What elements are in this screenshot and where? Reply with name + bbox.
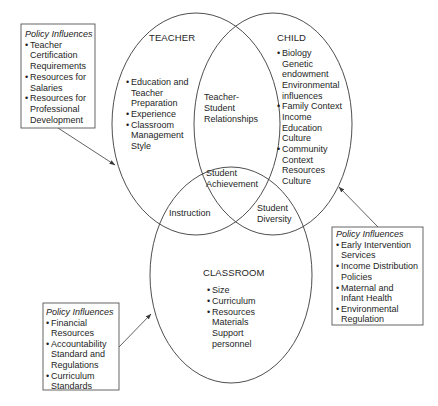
bullet: • bbox=[25, 72, 28, 82]
classroom-item-line: Resources bbox=[212, 307, 256, 317]
child-section: CHILD • Biology Genetic endowment Enviro… bbox=[277, 32, 343, 186]
classroom-title: CLASSROOM bbox=[203, 267, 265, 278]
policy-line: Teacher bbox=[30, 40, 62, 50]
child-item-line: Family Context bbox=[282, 101, 343, 111]
classroom-item-line: Curriculum bbox=[212, 296, 256, 306]
policy-line: Development bbox=[30, 115, 84, 125]
overlap-line: Teacher- bbox=[204, 92, 239, 102]
teacher-item-line: Teacher bbox=[131, 88, 163, 98]
policy-line: Curriculum bbox=[51, 371, 95, 381]
child-item-line: Environmental bbox=[282, 80, 340, 90]
child-policy-arrow bbox=[339, 187, 378, 227]
teacher-item-line: Style bbox=[131, 141, 151, 151]
child-item-line: Culture bbox=[282, 133, 311, 143]
bullet: • bbox=[277, 101, 280, 111]
child-title: CHILD bbox=[277, 32, 306, 43]
policy-line: Regulations bbox=[51, 360, 99, 370]
bullet: • bbox=[336, 261, 339, 271]
bullet: • bbox=[207, 307, 210, 317]
teacher-section: TEACHER • Education and Teacher Preparat… bbox=[126, 32, 195, 151]
bullet: • bbox=[46, 339, 49, 349]
venn-diagram: TEACHER • Education and Teacher Preparat… bbox=[0, 0, 438, 406]
bullet: • bbox=[336, 240, 339, 250]
policy-line: Requirements bbox=[30, 61, 87, 71]
teacher-policy-box: Policy Influences • Teacher Certificatio… bbox=[21, 24, 95, 128]
bullet: • bbox=[126, 77, 129, 87]
bullet: • bbox=[336, 283, 339, 293]
policy-line: Accountability bbox=[51, 339, 107, 349]
policy-line: Income Distribution bbox=[341, 261, 418, 271]
classroom-item-line: Support bbox=[212, 328, 244, 338]
child-policy-box: Policy Influences • Early Intervention S… bbox=[332, 227, 423, 325]
bullet: • bbox=[46, 318, 49, 328]
policy-line: Environmental bbox=[341, 304, 399, 314]
overlap-line: Student bbox=[204, 103, 236, 113]
policy-line: Financial bbox=[51, 318, 87, 328]
policy-line: Salaries bbox=[30, 83, 63, 93]
bullet: • bbox=[277, 48, 280, 58]
teacher-item-line: Management bbox=[131, 130, 184, 140]
teacher-item-line: Preparation bbox=[131, 98, 178, 108]
teacher-title: TEACHER bbox=[149, 32, 195, 43]
child-item-line: influences bbox=[282, 91, 323, 101]
policy-line: Resources bbox=[51, 328, 95, 338]
teacher-item-line: Experience bbox=[131, 109, 176, 119]
bullet: • bbox=[277, 144, 280, 154]
policy-line: Infant Health bbox=[341, 293, 392, 303]
teacher-item-line: Education and bbox=[131, 77, 189, 87]
policy-line: Policies bbox=[341, 272, 373, 282]
overlap-line: Instruction bbox=[169, 208, 211, 218]
bullet: • bbox=[126, 109, 129, 119]
policy-title: Policy Influences bbox=[336, 229, 404, 239]
bullet: • bbox=[46, 371, 49, 381]
child-item-line: Community bbox=[282, 144, 328, 154]
policy-line: Certification bbox=[30, 50, 78, 60]
overlap-line: Achievement bbox=[206, 179, 259, 189]
classroom-item-line: Materials bbox=[212, 317, 249, 327]
center-overlap: Student Achievement bbox=[206, 168, 259, 189]
teacher-policy-arrow bbox=[58, 128, 115, 165]
overlap-line: Diversity bbox=[257, 214, 292, 224]
bullet: • bbox=[336, 304, 339, 314]
teacher-classroom-overlap: Instruction bbox=[169, 208, 211, 218]
child-classroom-overlap: Student Diversity bbox=[257, 203, 292, 225]
policy-line: Maternal and bbox=[341, 283, 394, 293]
policy-line: Early Intervention bbox=[341, 240, 411, 250]
policy-line: Standard and bbox=[51, 349, 105, 359]
overlap-line: Student bbox=[257, 203, 289, 213]
classroom-policy-box: Policy Influences • Financial Resources … bbox=[43, 303, 119, 391]
child-item-line: Genetic bbox=[282, 59, 314, 69]
child-item-line: Resources bbox=[282, 165, 326, 175]
bullet: • bbox=[25, 93, 28, 103]
teacher-item-line: Classroom bbox=[131, 120, 174, 130]
child-item-line: Income bbox=[282, 112, 312, 122]
bullet: • bbox=[25, 40, 28, 50]
teacher-child-overlap: Teacher- Student Relationships bbox=[204, 92, 259, 124]
child-item-line: Education bbox=[282, 123, 322, 133]
child-item-line: endowment bbox=[282, 69, 329, 79]
policy-line: Resources for bbox=[30, 72, 86, 82]
bullet: • bbox=[207, 296, 210, 306]
classroom-policy-arrow bbox=[119, 314, 151, 347]
policy-line: Resources for bbox=[30, 93, 86, 103]
policy-line: Services bbox=[341, 250, 376, 260]
policy-title: Policy Influences bbox=[25, 29, 93, 39]
overlap-line: Relationships bbox=[204, 114, 259, 124]
overlap-line: Student bbox=[206, 168, 238, 178]
policy-line: Regulation bbox=[341, 314, 384, 324]
child-item-line: Culture bbox=[282, 176, 311, 186]
policy-line: Standards bbox=[51, 381, 93, 391]
classroom-item-line: personnel bbox=[212, 339, 252, 349]
policy-title: Policy Influences bbox=[46, 307, 114, 317]
classroom-section: CLASSROOM • Size • Curriculum • Resource… bbox=[203, 267, 265, 349]
child-item-line: Context bbox=[282, 155, 314, 165]
child-item-line: Biology bbox=[282, 48, 312, 58]
classroom-item-line: Size bbox=[212, 285, 230, 295]
bullet: • bbox=[207, 285, 210, 295]
bullet: • bbox=[126, 120, 129, 130]
policy-line: Professional bbox=[30, 104, 80, 114]
